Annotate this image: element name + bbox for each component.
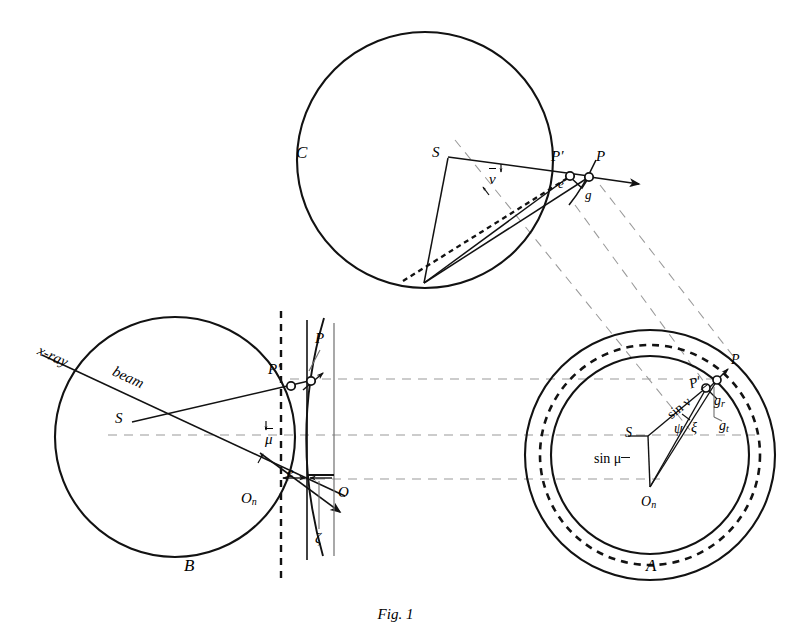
panel-c-line-vertex-to-p xyxy=(424,177,589,283)
panel-a-on-subscript: n xyxy=(651,499,656,510)
panel-b-sphere-edge-arc xyxy=(306,318,324,556)
panel-b-label-p: P xyxy=(315,330,324,347)
panel-b-on-subscript: n xyxy=(252,496,257,507)
panel-a-label-psi: ψ xyxy=(674,421,683,437)
panel-a-label-on: On xyxy=(641,494,656,510)
panel-c-circle xyxy=(297,32,553,288)
gr-base: g xyxy=(714,393,721,408)
nu-glyph: ν xyxy=(489,171,496,187)
panel-b-line-s-to-p xyxy=(132,380,313,422)
panel-b-beam-line xyxy=(42,355,345,496)
panel-letter-c: C xyxy=(296,143,307,163)
figure-caption: Fig. 1 xyxy=(0,606,791,623)
panel-b-point-p xyxy=(307,377,315,385)
panel-b-circle xyxy=(55,317,295,557)
panel-b-label-p-prime: P′ xyxy=(268,361,280,378)
panel-b-line-s-to-o xyxy=(132,422,334,482)
panel-c-label-nu-bar: ν xyxy=(489,170,496,188)
panel-b-label-on: On xyxy=(241,490,257,507)
panel-a-line-s-to-on xyxy=(648,436,650,487)
panel-a-label-gt: gt xyxy=(719,418,729,434)
panel-b-label-e: e xyxy=(287,464,294,481)
panel-c-arrow-from-p xyxy=(590,177,639,184)
panel-a-dashed-circle xyxy=(540,345,760,565)
panel-b-scattered-ray xyxy=(310,482,334,493)
gr-subscript: r xyxy=(721,398,725,409)
panel-c-label-e: e xyxy=(558,176,564,192)
panel-b-point-pprime xyxy=(287,382,295,390)
panel-b xyxy=(42,311,345,578)
panel-c-point-pprime xyxy=(566,172,574,180)
panel-b-label-s: S xyxy=(115,410,123,427)
panel-c-point-p xyxy=(585,173,593,181)
panel-c-label-p: P xyxy=(596,148,605,165)
panel-a-label-p: P xyxy=(731,352,740,368)
panel-b-on-base: O xyxy=(241,490,252,506)
panel-c-nu-angle-arrow2 xyxy=(483,187,489,195)
panel-letter-b: B xyxy=(184,556,194,576)
panel-b-out-arrow xyxy=(260,453,340,512)
panel-a-point-p xyxy=(713,376,721,384)
panel-a-inner-circle xyxy=(551,356,749,554)
panel-b-label-mu-bar: μ xyxy=(265,430,273,448)
panel-a-mu-overbar xyxy=(594,447,630,465)
panel-c-label-g: g xyxy=(585,187,592,203)
panel-letter-a: A xyxy=(646,556,656,576)
panel-c-label-p-prime: P′ xyxy=(551,148,563,165)
panel-c-label-s: S xyxy=(432,144,440,161)
panel-a-label-xi: ξ xyxy=(691,420,697,436)
gt-base: g xyxy=(719,418,726,433)
panel-a-label-gr: gr xyxy=(714,393,725,409)
panel-b-label-o: O xyxy=(338,484,349,501)
gt-subscript: t xyxy=(726,423,729,434)
figure-canvas xyxy=(0,0,791,624)
panel-c xyxy=(297,32,639,288)
panel-a-on-base: O xyxy=(641,494,651,509)
panel-a-label-s: S xyxy=(625,425,632,441)
panel-b-label-zeta: ζ xyxy=(315,530,321,547)
mu-glyph: μ xyxy=(265,431,273,447)
panel-c-line-s-to-vertex xyxy=(424,158,448,283)
